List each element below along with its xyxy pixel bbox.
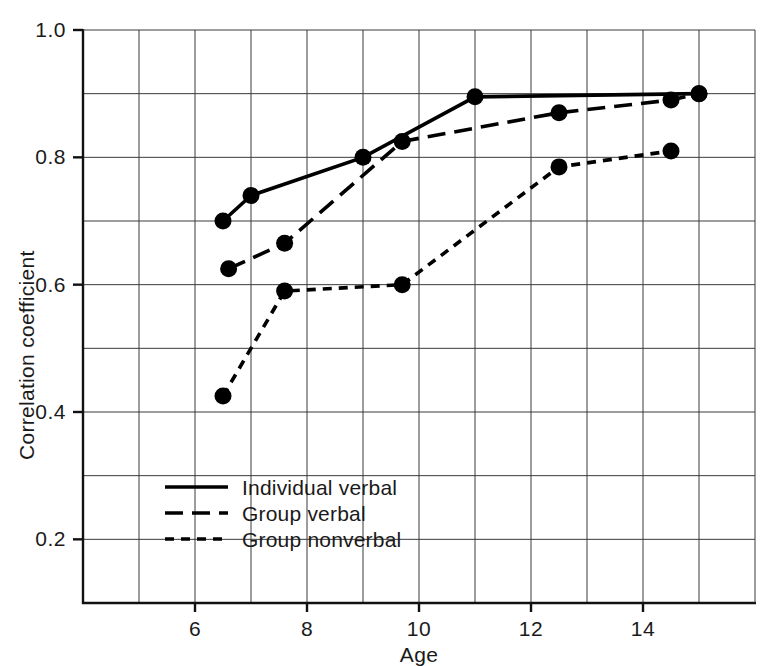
- series-line-long-dash: [229, 94, 699, 269]
- data-point-marker: [243, 187, 260, 204]
- data-point-marker: [551, 158, 568, 175]
- chart-legend: Individual verbalGroup verbalGroup nonve…: [165, 476, 401, 551]
- data-point-marker: [220, 260, 237, 277]
- data-point-marker: [355, 149, 372, 166]
- chart-figure: 0.20.40.60.81.0 68101214 Correlation coe…: [0, 0, 773, 666]
- y-tick-labels: 0.20.40.60.81.0: [35, 18, 66, 550]
- data-point-marker: [394, 276, 411, 293]
- x-tick-marks: [195, 603, 643, 612]
- y-axis-title: Correlation coefficient: [15, 250, 38, 460]
- series-markers: [215, 85, 708, 404]
- y-tick-label: 0.4: [35, 400, 66, 423]
- x-tick-label: 12: [519, 617, 543, 640]
- series-lines: [223, 94, 699, 396]
- data-point-marker: [215, 388, 232, 405]
- data-point-marker: [663, 92, 680, 109]
- legend-label: Group verbal: [242, 502, 366, 525]
- x-tick-label: 14: [631, 617, 655, 640]
- legend-label: Group nonverbal: [242, 528, 401, 551]
- legend-label: Individual verbal: [242, 476, 397, 499]
- data-point-marker: [394, 133, 411, 150]
- y-tick-label: 0.2: [35, 527, 66, 550]
- data-point-marker: [276, 235, 293, 252]
- x-axis-title: Age: [400, 643, 438, 666]
- series-line-short-dash: [223, 151, 671, 396]
- data-point-marker: [467, 88, 484, 105]
- data-point-marker: [691, 85, 708, 102]
- y-tick-label: 1.0: [35, 18, 66, 41]
- x-tick-label: 8: [301, 617, 313, 640]
- x-tick-label: 6: [189, 617, 201, 640]
- y-tick-label: 0.6: [35, 273, 66, 296]
- y-tick-marks: [73, 30, 83, 539]
- correlation-coefficient-by-age-line-chart: 0.20.40.60.81.0 68101214 Correlation coe…: [0, 0, 773, 666]
- data-point-marker: [663, 142, 680, 159]
- data-point-marker: [276, 283, 293, 300]
- data-point-marker: [215, 213, 232, 230]
- x-tick-label: 10: [407, 617, 431, 640]
- grid-minor: [83, 30, 755, 603]
- x-tick-labels: 68101214: [189, 617, 655, 640]
- data-point-marker: [551, 104, 568, 121]
- y-tick-label: 0.8: [35, 145, 66, 168]
